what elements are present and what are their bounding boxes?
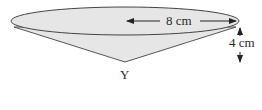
cone-diagram: 8 cm 4 cm Y [0, 0, 262, 110]
height-label: 4 cm [229, 35, 255, 50]
radius-label: 8 cm [166, 13, 192, 28]
apex-label: Y [120, 67, 130, 82]
